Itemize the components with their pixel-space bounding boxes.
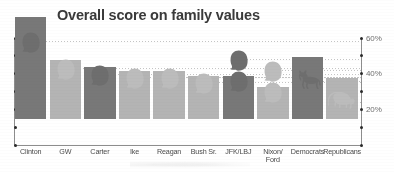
cat-label-line2: Ford (266, 155, 280, 164)
cat-label-line1: GW (59, 147, 71, 156)
president-head-icon-second (263, 82, 282, 103)
cat-label-line1: JFK/LBJ (225, 147, 251, 156)
president-head-icon (229, 50, 248, 71)
cat-label-line1: Carter (90, 147, 109, 156)
president-head-icon (90, 65, 109, 86)
cat-label-line1: Bush Sr. (191, 147, 217, 156)
president-head-icon-second (229, 71, 248, 92)
cat-label-line1: Clinton (20, 147, 41, 156)
elephant-icon (328, 92, 356, 109)
donkey-icon (295, 70, 321, 89)
x-axis-category-label: Republicans (320, 148, 363, 156)
cat-label-line1: Democrats (291, 147, 324, 156)
scan-artifact (130, 160, 250, 169)
chart-container: Overall score on family values 60%40%20%… (0, 0, 394, 172)
president-head-icon (263, 61, 282, 82)
president-head-icon (21, 32, 40, 53)
president-head-icon (125, 68, 144, 89)
cat-label-line1: Reagan (157, 147, 181, 156)
bars-group: ClintonGWCarterIkeReaganBush Sr.JFK/LBJN… (0, 0, 394, 146)
cat-label-line1: Ike (130, 147, 139, 156)
president-head-icon (194, 73, 213, 94)
president-head-icon (160, 68, 179, 89)
president-head-icon (56, 59, 75, 80)
cat-label-line1: Republicans (323, 147, 361, 156)
